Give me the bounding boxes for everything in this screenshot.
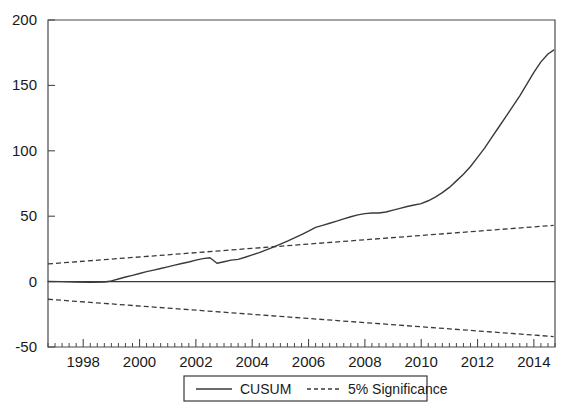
x-tick-label-2006: 2006 xyxy=(292,353,325,370)
y-tick-label-0: 0 xyxy=(29,273,37,290)
plot-frame-border xyxy=(48,20,555,347)
y-tick-label-200: 200 xyxy=(12,11,37,28)
cusum-chart-svg: -50050100150200 199820002002200420062008… xyxy=(0,0,569,413)
y-tick-label-100: 100 xyxy=(12,142,37,159)
x-tick-label-2010: 2010 xyxy=(405,353,438,370)
lower-5pct-significance-line xyxy=(48,299,554,336)
cusum-series-line xyxy=(48,50,554,282)
x-tick-label-2002: 2002 xyxy=(179,353,212,370)
legend: CUSUM 5% Significance xyxy=(184,376,448,401)
upper-5pct-significance-line xyxy=(48,225,554,264)
x-tick-label-1998: 1998 xyxy=(67,353,100,370)
cusum-chart-screen: -50050100150200 199820002002200420062008… xyxy=(0,0,569,413)
x-tick-label-2012: 2012 xyxy=(461,353,494,370)
x-axis-ticks xyxy=(83,339,534,347)
y-axis-ticks xyxy=(48,20,55,347)
x-tick-label-2008: 2008 xyxy=(348,353,381,370)
x-tick-label-2014: 2014 xyxy=(517,353,550,370)
legend-label-cusum: CUSUM xyxy=(240,381,291,397)
legend-label-significance: 5% Significance xyxy=(348,381,448,397)
plot-frame xyxy=(48,20,555,347)
y-axis-labels: -50050100150200 xyxy=(12,11,37,355)
x-axis-labels: 199820002002200420062008201020122014 xyxy=(67,353,551,370)
y-tick-label--50: -50 xyxy=(15,338,37,355)
y-tick-label-150: 150 xyxy=(12,76,37,93)
x-tick-label-2004: 2004 xyxy=(236,353,269,370)
y-tick-label-50: 50 xyxy=(20,207,37,224)
x-tick-label-2000: 2000 xyxy=(123,353,156,370)
